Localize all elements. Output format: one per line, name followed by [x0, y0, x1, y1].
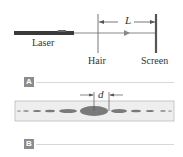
laser-label: Laser: [32, 37, 54, 48]
hair-label: Hair: [88, 55, 106, 66]
pattern-drawing: [0, 92, 183, 132]
dimension-arrow-icon: [89, 94, 94, 97]
panel-b-divider: [36, 144, 174, 145]
dimension-arrow-icon: [150, 20, 155, 24]
panel-a-badge: A: [24, 77, 34, 87]
panel-b-badge: B: [24, 139, 34, 149]
beam-arrow-icon: [124, 30, 130, 36]
screen-label: Screen: [141, 55, 168, 66]
dimension-arrow-icon: [109, 94, 114, 97]
panel-a-divider: [36, 82, 174, 83]
spacing-label: d: [98, 88, 104, 100]
distance-label: L: [125, 14, 131, 26]
dimension-arrow-icon: [99, 20, 104, 24]
